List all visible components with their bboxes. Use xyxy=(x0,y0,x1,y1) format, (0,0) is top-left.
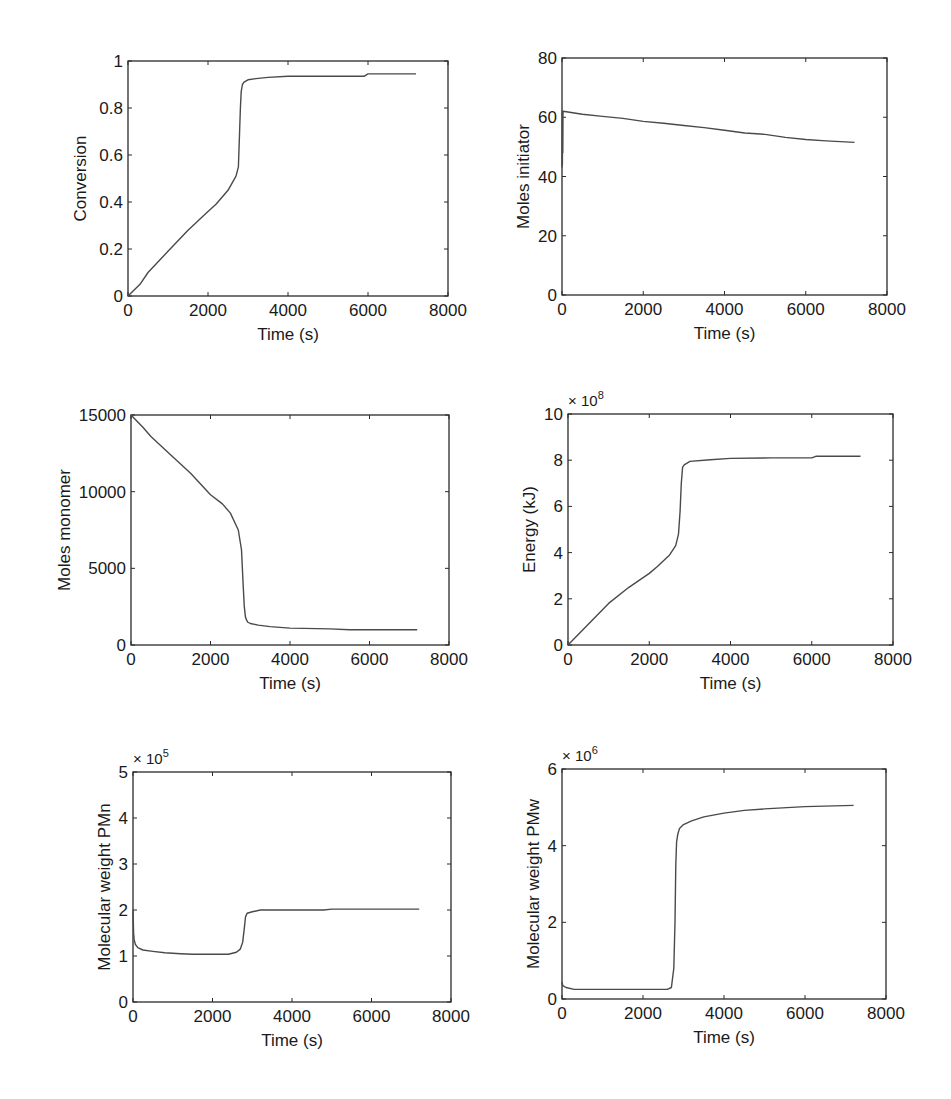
y-tick-label: 0 xyxy=(117,636,126,655)
x-tick-label: 0 xyxy=(128,1007,137,1026)
x-tick-label: 0 xyxy=(557,1004,566,1023)
y-tick-label: 0.4 xyxy=(99,193,123,212)
y-axis-label: Molecular weight PMw xyxy=(524,798,543,969)
x-tick-label: 2000 xyxy=(192,650,230,669)
figure-canvas: 0200040006000800000.20.40.60.81Time (s)C… xyxy=(0,0,951,1099)
x-tick-label: 2000 xyxy=(630,650,668,669)
y-tick-label: 15000 xyxy=(79,406,126,425)
plot-area xyxy=(562,58,887,295)
y-axis-label: Energy (kJ) xyxy=(520,486,539,573)
x-tick-label: 2000 xyxy=(189,301,227,320)
y-axis-label: Conversion xyxy=(71,136,90,222)
x-tick-label: 0 xyxy=(126,650,135,669)
plot-area xyxy=(131,415,449,645)
y-tick-label: 4 xyxy=(548,837,557,856)
y-tick-label: 6 xyxy=(554,497,563,516)
x-tick-label: 8000 xyxy=(874,650,912,669)
plot-area xyxy=(562,769,886,999)
chart-molecular-weight-pmn: 02000400060008000012345× 105Time (s)Mole… xyxy=(95,747,470,1050)
y-tick-label: 0.2 xyxy=(99,240,123,259)
y-tick-label: 4 xyxy=(119,809,128,828)
x-tick-label: 8000 xyxy=(867,1004,905,1023)
x-tick-label: 6000 xyxy=(787,300,825,319)
x-tick-label: 2000 xyxy=(624,1004,662,1023)
x-axis-label: Time (s) xyxy=(694,324,756,343)
x-tick-label: 0 xyxy=(123,301,132,320)
x-axis-label: Time (s) xyxy=(693,1028,755,1047)
y-tick-label: 40 xyxy=(538,168,557,187)
x-tick-label: 4000 xyxy=(271,650,309,669)
y-tick-label: 0 xyxy=(548,286,557,305)
y-tick-label: 2 xyxy=(548,913,557,932)
x-tick-label: 4000 xyxy=(705,1004,743,1023)
plot-area xyxy=(133,772,451,1002)
x-tick-label: 0 xyxy=(563,650,572,669)
x-axis-label: Time (s) xyxy=(700,674,762,693)
y-tick-label: 0.8 xyxy=(99,99,123,118)
x-tick-label: 6000 xyxy=(786,1004,824,1023)
chart-moles-initiator: 02000400060008000020406080Time (s)Moles … xyxy=(514,49,906,343)
y-tick-label: 0 xyxy=(119,993,128,1012)
y-tick-label: 2 xyxy=(554,590,563,609)
chart-conversion: 0200040006000800000.20.40.60.81Time (s)C… xyxy=(71,52,467,344)
y-axis-label: Molecular weight PMn xyxy=(95,803,114,970)
x-axis-label: Time (s) xyxy=(257,325,319,344)
y-tick-label: 8 xyxy=(554,451,563,470)
y-tick-label: 0.6 xyxy=(99,146,123,165)
x-axis-label: Time (s) xyxy=(259,674,321,693)
x-tick-label: 6000 xyxy=(349,301,387,320)
x-tick-label: 4000 xyxy=(273,1007,311,1026)
y-tick-label: 80 xyxy=(538,49,557,68)
y-tick-label: 3 xyxy=(119,855,128,874)
x-tick-label: 8000 xyxy=(430,650,468,669)
y-tick-label: 1 xyxy=(114,52,123,71)
y-tick-label: 0 xyxy=(548,990,557,1009)
y-axis-label: Moles initiator xyxy=(514,124,533,229)
x-tick-label: 8000 xyxy=(432,1007,470,1026)
y-tick-label: 0 xyxy=(114,287,123,306)
x-tick-label: 6000 xyxy=(353,1007,391,1026)
plot-area xyxy=(568,414,893,645)
y-tick-label: 2 xyxy=(119,901,128,920)
x-tick-label: 4000 xyxy=(706,300,744,319)
y-tick-label: 5 xyxy=(119,763,128,782)
x-tick-label: 2000 xyxy=(194,1007,232,1026)
x-tick-label: 8000 xyxy=(868,300,906,319)
x-tick-label: 6000 xyxy=(793,650,831,669)
axis-exponent: × 106 xyxy=(562,744,598,764)
chart-moles-monomer: 02000400060008000050001000015000Time (s)… xyxy=(55,406,468,693)
chart-energy: 020004000600080000246810× 108Time (s)Ene… xyxy=(520,389,912,693)
x-tick-label: 2000 xyxy=(624,300,662,319)
x-axis-label: Time (s) xyxy=(261,1031,323,1050)
y-tick-label: 6 xyxy=(548,760,557,779)
y-tick-label: 1 xyxy=(119,947,128,966)
x-tick-label: 0 xyxy=(557,300,566,319)
y-axis-label: Moles monomer xyxy=(55,469,74,591)
y-tick-label: 20 xyxy=(538,227,557,246)
y-tick-label: 5000 xyxy=(88,559,126,578)
x-tick-label: 6000 xyxy=(351,650,389,669)
x-tick-label: 4000 xyxy=(712,650,750,669)
y-tick-label: 10 xyxy=(544,405,563,424)
plot-area xyxy=(128,61,448,296)
axis-exponent: × 105 xyxy=(133,747,169,767)
y-tick-label: 0 xyxy=(554,636,563,655)
y-tick-label: 10000 xyxy=(79,483,126,502)
axis-exponent: × 108 xyxy=(568,389,604,409)
x-tick-label: 4000 xyxy=(269,301,307,320)
x-tick-label: 8000 xyxy=(429,301,467,320)
chart-molecular-weight-pmw: 020004000600080000246× 106Time (s)Molecu… xyxy=(524,744,905,1047)
y-tick-label: 60 xyxy=(538,108,557,127)
y-tick-label: 4 xyxy=(554,544,563,563)
